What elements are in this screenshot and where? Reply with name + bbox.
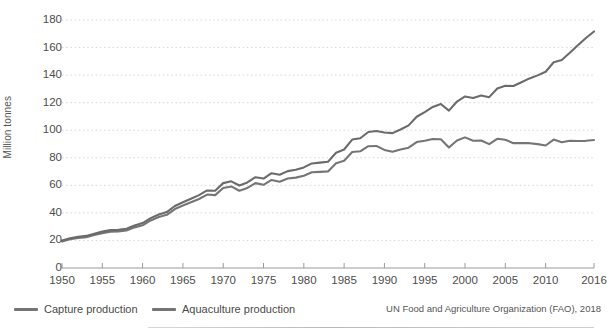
y-axis-tick-100: 100 [28,124,62,136]
legend-item-aquaculture-production[interactable]: Aquaculture production [152,303,295,315]
x-axis-tick-1975: 1975 [251,274,277,286]
x-axis-tick-1970: 1970 [210,274,236,286]
chart-container: Million tonnes 020406080100120140160180 … [0,0,609,336]
x-axis-tick-1985: 1985 [331,274,357,286]
legend-label-capture-production: Capture production [44,303,138,315]
y-axis-tick-80: 80 [28,152,62,164]
y-axis-tick-60: 60 [28,180,62,192]
legend-swatch-capture-production [14,308,38,311]
x-axis-tick-2010: 2010 [533,274,559,286]
legend-swatch-aquaculture-production [152,308,176,311]
x-axis-tick-2000: 2000 [452,274,478,286]
x-axis-tick-2005: 2005 [493,274,519,286]
x-axis-tick-1950: 1950 [49,274,75,286]
x-axis-tick-1995: 1995 [412,274,438,286]
x-axis-tick-1980: 1980 [291,274,317,286]
series-line-aquaculture-production [62,31,594,240]
x-axis-tick-1965: 1965 [170,274,196,286]
source-attribution: UN Food and Agriculture Organization (FA… [386,303,601,314]
y-axis-tick-120: 120 [28,97,62,109]
y-axis-tick-180: 180 [28,14,62,26]
x-axis-tick-1960: 1960 [130,274,156,286]
y-axis-tick-40: 40 [28,207,62,219]
series-line-capture-production [62,137,594,241]
legend-label-aquaculture-production: Aquaculture production [182,303,295,315]
y-axis-tick-140: 140 [28,69,62,81]
x-axis-tick-1955: 1955 [90,274,116,286]
footer-divider [148,327,594,328]
y-axis-title: Million tonnes [2,96,16,159]
x-axis-tick-2016: 2016 [581,274,607,286]
legend-item-capture-production[interactable]: Capture production [14,303,138,315]
y-axis-tick-20: 20 [28,235,62,247]
y-axis-tick-160: 160 [28,42,62,54]
y-axis-tick-0: 0 [28,262,62,274]
x-axis-tick-1990: 1990 [372,274,398,286]
